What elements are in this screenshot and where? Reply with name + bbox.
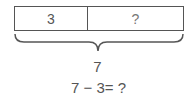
total-label: 7 [0, 58, 195, 75]
equation: 7 − 3= ? [0, 79, 195, 96]
